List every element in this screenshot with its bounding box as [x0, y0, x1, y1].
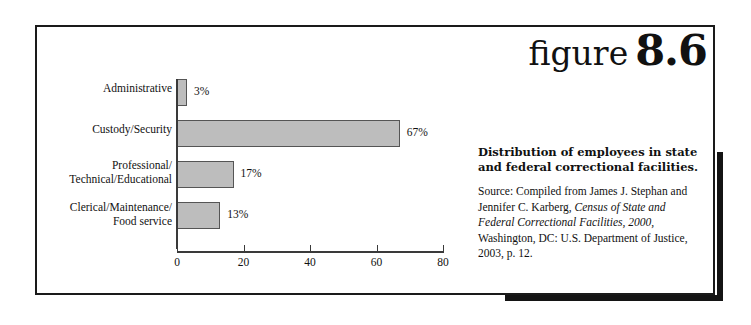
bar-chart: Administrative Custody/Security Professi…	[37, 27, 477, 297]
x-tick-label-0: 0	[174, 256, 180, 268]
x-tick-0	[177, 245, 178, 253]
x-tick-20	[244, 245, 245, 253]
bar-value-custody-security: 67%	[407, 126, 428, 138]
y-axis-line	[176, 79, 178, 249]
caption-title: Distribution of employees in state and f…	[478, 145, 703, 175]
bar-value-administrative: 3%	[194, 85, 209, 97]
bar-custody-security	[177, 120, 400, 147]
bar-value-clerical-maintenance-food-service: 13%	[227, 208, 248, 220]
caption-source: Source: Compiled from James J. Stephan a…	[478, 184, 703, 262]
figure-shadow-right	[717, 152, 723, 301]
figure-shadow-bottom	[505, 295, 723, 301]
category-label-professional-technical-educational: Professional/ Technical/Educational	[40, 159, 172, 186]
category-label-custody-security: Custody/Security	[40, 123, 172, 137]
figure-number: 8.6	[635, 29, 707, 72]
figure-frame: figure 8.6 Administrative Custody/Securi…	[35, 25, 715, 295]
figure-number-label: figure 8.6	[528, 29, 707, 72]
bar-administrative	[177, 79, 187, 106]
bar-value-professional-technical-educational: 17%	[241, 167, 262, 179]
category-label-clerical-maintenance-food-service: Clerical/Maintenance/ Food service	[40, 201, 172, 228]
x-tick-label-40: 40	[304, 256, 316, 268]
caption-block: Distribution of employees in state and f…	[478, 145, 703, 262]
category-label-administrative: Administrative	[40, 82, 172, 96]
x-tick-80	[443, 245, 444, 253]
bar-professional-technical-educational	[177, 161, 234, 188]
bar-clerical-maintenance-food-service	[177, 202, 220, 229]
caption-source-suffix: Washington, DC: U.S. Department of Justi…	[478, 232, 688, 260]
x-tick-label-80: 80	[437, 256, 449, 268]
figure-word: figure	[528, 37, 628, 70]
x-tick-40	[310, 245, 311, 253]
x-tick-label-20: 20	[238, 256, 250, 268]
x-tick-label-60: 60	[371, 256, 383, 268]
x-tick-60	[377, 245, 378, 253]
